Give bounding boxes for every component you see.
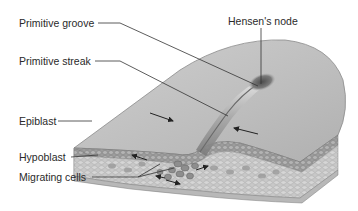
gastrulation-diagram: Primitive groove Primitive streak Hensen…: [0, 0, 358, 211]
label-primitive-groove: Primitive groove: [19, 17, 94, 29]
label-hypoblast: Hypoblast: [19, 151, 66, 163]
label-hensens-node: Hensen's node: [228, 15, 298, 27]
label-epiblast: Epiblast: [19, 115, 56, 127]
label-primitive-streak: Primitive streak: [19, 55, 91, 67]
label-migrating-cells: Migrating cells: [19, 171, 86, 183]
